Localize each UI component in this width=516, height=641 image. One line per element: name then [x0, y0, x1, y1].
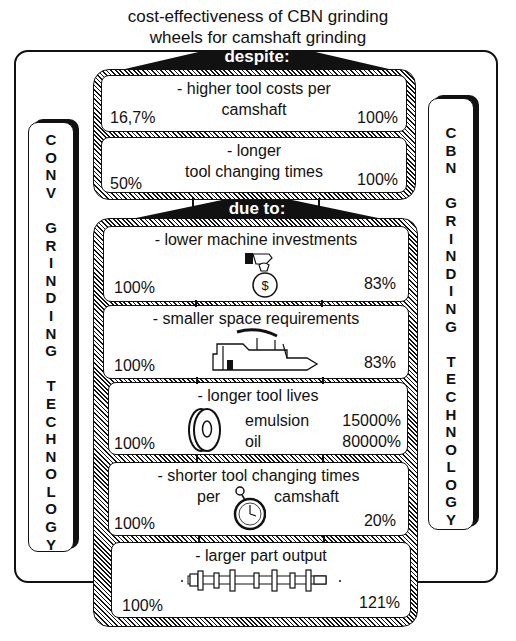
connector-line [323, 535, 325, 543]
item-title: - smaller space requirements [104, 309, 408, 328]
emulsion-label: emulsion [245, 412, 309, 430]
due-to-label: due to: [112, 199, 402, 219]
despite-label: despite: [112, 47, 402, 67]
conv-value: 100% [114, 515, 155, 533]
camshaft-icon [180, 568, 344, 594]
item-title: - shorter tool changing times [109, 466, 408, 485]
factory-building-icon [209, 328, 319, 373]
svg-text:$: $ [261, 278, 269, 293]
conv-value: 100% [114, 357, 155, 375]
money-bag-hand-icon: $ [244, 251, 284, 299]
connector-line [196, 377, 198, 384]
connector-line [196, 454, 198, 463]
oil-value: 80000% [342, 433, 401, 451]
item-title: - lower machine investments [104, 230, 408, 249]
due-to-item-space-requirements: - smaller space requirements 100% 83% [103, 305, 409, 379]
stopwatch-icon [226, 485, 266, 533]
connector-line [321, 300, 323, 307]
despite-item-tool-changing-times: - longer tool changing times 50% 100% [101, 137, 407, 193]
cbn-value: 83% [364, 275, 396, 293]
cbn-value: 100% [357, 171, 398, 189]
cbn-vertical-label: CBN GRINDING TECHNOLOGY [429, 124, 473, 529]
cbn-grinding-technology-box: CBN GRINDING TECHNOLOGY [428, 98, 474, 530]
emulsion-value: 15000% [342, 412, 401, 430]
grinding-wheel-icon [187, 407, 223, 453]
cbn-value: 100% [357, 109, 398, 127]
despite-item-tool-costs: - higher tool costs per camshaft 16,7% 1… [101, 75, 407, 132]
due-to-item-shorter-changing-times: - shorter tool changing times per camsha… [108, 462, 409, 536]
camshaft-label: camshaft [274, 488, 339, 506]
conv-value: 50% [110, 175, 142, 193]
conv-value: 100% [114, 435, 155, 453]
item-title: - larger part output [112, 546, 410, 565]
due-to-item-machine-investments: - lower machine investments $ 100% 83% [103, 226, 409, 302]
due-to-item-tool-lives: - longer tool lives emulsion 15000% oil … [108, 382, 408, 455]
connector-line [322, 377, 324, 384]
connector-line [195, 300, 197, 307]
connector-line [198, 535, 200, 543]
cbn-value: 20% [364, 512, 396, 530]
diagram-title: cost-effectiveness of CBN grinding wheel… [0, 6, 516, 48]
conv-grinding-technology-box: CONV GRINDING TECHNOLOGY [28, 122, 74, 552]
item-title: - longer tool lives [109, 386, 407, 405]
oil-label: oil [245, 433, 261, 451]
cbn-value: 83% [364, 354, 396, 372]
item-title: - higher tool costs per [102, 79, 406, 98]
item-title: - longer [102, 141, 406, 160]
connector-line [322, 454, 324, 463]
conv-value: 16,7% [110, 109, 155, 127]
due-to-item-part-output: - larger part output 100% 121% [111, 542, 411, 618]
conv-vertical-label: CONV GRINDING TECHNOLOGY [29, 131, 73, 553]
conv-value: 100% [122, 597, 163, 615]
per-label: per [197, 488, 220, 506]
cbn-value: 121% [359, 594, 400, 612]
title-line-1: cost-effectiveness of CBN grinding [0, 6, 516, 27]
conv-value: 100% [114, 279, 155, 297]
